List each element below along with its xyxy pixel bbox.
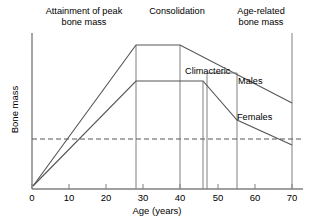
x-tick-10: 10 [64, 192, 75, 203]
series-label-females: Females [237, 112, 272, 122]
x-axis-title: Age (years) [0, 205, 314, 216]
x-tick-labels: 0 10 20 30 40 50 60 70 [29, 192, 297, 203]
series-label-males: Males [238, 76, 263, 86]
x-tick-30: 30 [138, 192, 149, 203]
x-tick-20: 20 [101, 192, 112, 203]
phase-label-consolidation: Consolidation [134, 6, 220, 17]
phase-label-age-related: Age-related bone mass [218, 6, 304, 28]
phase-separators [136, 33, 292, 189]
x-tick-70: 70 [287, 192, 298, 203]
annotation-climacteric: Climacteric [185, 66, 230, 76]
x-axis-ticks [32, 184, 292, 189]
x-tick-0: 0 [29, 192, 34, 203]
x-tick-40: 40 [175, 192, 186, 203]
y-axis-title: Bone mass [9, 75, 20, 145]
x-tick-50: 50 [213, 192, 224, 203]
phase-label-attainment: Attainment of peak bone mass [30, 6, 138, 28]
bone-mass-chart: Attainment of peak bone mass Consolidati… [0, 0, 314, 224]
x-tick-60: 60 [250, 192, 261, 203]
